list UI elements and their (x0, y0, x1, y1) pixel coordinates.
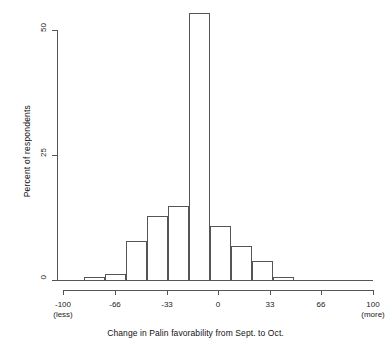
x-axis-title: Change in Palin favorability from Sept. … (0, 328, 391, 338)
x-tick-mark-100 (373, 290, 374, 295)
x-tick-mark--66 (115, 290, 116, 295)
plot-area: 50 25 0 Percent of respondents (0, 0, 391, 352)
histogram-bar (273, 277, 294, 281)
x-tick-mark-33 (270, 290, 271, 295)
histogram-bar (252, 261, 273, 281)
y-axis-line (57, 30, 58, 281)
y-tick-label-50: 50 (40, 23, 48, 32)
x-tick-label-66: 66 (301, 300, 341, 310)
histogram-bar (231, 246, 252, 281)
x-tick-mark-0 (218, 290, 219, 295)
histogram-bar (126, 241, 147, 281)
y-tick-mark-25 (52, 155, 57, 156)
x-tick-value: 100 (366, 300, 379, 309)
x-tick-mark--33 (167, 290, 168, 295)
x-tick-value: -66 (109, 300, 121, 309)
x-tick-value: 66 (317, 300, 326, 309)
y-tick-label-25: 25 (40, 148, 48, 157)
y-axis-title: Percent of respondents (22, 105, 32, 197)
x-tick-sublabel: (more) (353, 310, 391, 320)
histogram-bar (147, 216, 168, 281)
x-tick-value: 0 (216, 300, 220, 309)
x-tick-sublabel: (less) (43, 310, 83, 320)
x-tick-label--100: -100 (less) (43, 300, 83, 320)
y-tick-mark-50 (52, 30, 57, 31)
x-tick-label--33: -33 (147, 300, 187, 310)
histogram-bar (84, 277, 105, 281)
y-tick-label-0: 0 (40, 275, 48, 279)
x-tick-value: -100 (55, 300, 71, 309)
x-tick-label-0: 0 (198, 300, 238, 310)
x-tick-label--66: -66 (95, 300, 135, 310)
histogram-bar (189, 13, 210, 281)
x-tick-label-100: 100 (more) (353, 300, 391, 320)
histogram-bar (105, 274, 126, 281)
x-tick-label-33: 33 (250, 300, 290, 310)
x-tick-mark-66 (321, 290, 322, 295)
x-tick-value: -33 (161, 300, 173, 309)
x-tick-value: 33 (266, 300, 275, 309)
x-tick-mark--100 (63, 290, 64, 295)
histogram-figure: 50 25 0 Percent of respondents (0, 0, 391, 352)
histogram-bar (210, 226, 231, 281)
histogram-bar (168, 206, 189, 281)
